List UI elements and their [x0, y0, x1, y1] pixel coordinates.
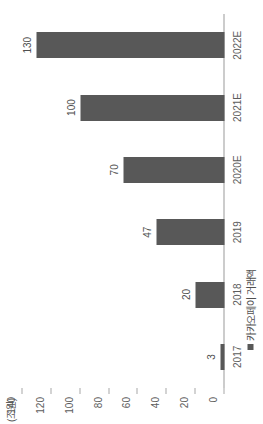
bar[interactable]: [123, 157, 224, 183]
bar-value-label: 70: [108, 164, 119, 175]
bar-value-label: 100: [65, 99, 76, 116]
bar-value-label: 3: [205, 354, 216, 360]
y-axis-tick-label: 0: [208, 397, 219, 403]
y-axis-tick-label: 80: [92, 397, 103, 408]
y-axis-tick: [136, 388, 137, 394]
plot-area: 020406080100120140 320172020184720197020…: [22, 14, 224, 388]
y-axis-tick-label: 140: [6, 397, 17, 414]
y-axis-tick-label: 100: [63, 397, 74, 414]
x-axis-category-label: 2019: [231, 221, 242, 243]
bar[interactable]: [36, 32, 224, 58]
bar-value-label: 47: [141, 227, 152, 238]
bar-group: 32017: [22, 326, 224, 388]
bar[interactable]: [156, 219, 224, 245]
bar[interactable]: [195, 282, 224, 308]
legend-swatch-icon: [247, 344, 253, 350]
bar-group: 702020E: [22, 139, 224, 201]
y-axis-tick: [223, 388, 224, 394]
chart-legend: 카카오페이 거래액: [242, 269, 257, 350]
rotated-figure-wrapper: (조원) 020406080100120140 3201720201847201…: [0, 0, 263, 424]
x-axis-category-label: 2021E: [231, 93, 242, 122]
y-axis-tick-label: 40: [150, 397, 161, 408]
x-axis-category-label: 2020E: [231, 155, 242, 184]
y-axis-tick: [50, 388, 51, 394]
legend-label: 카카오페이 거래액: [242, 269, 257, 341]
bar-group: 472019: [22, 201, 224, 263]
y-axis-tick: [79, 388, 80, 394]
y-axis-tick-label: 20: [179, 397, 190, 408]
bar-value-label: 20: [180, 289, 191, 300]
bar-group: 1302022E: [22, 14, 224, 76]
bar[interactable]: [80, 95, 224, 121]
y-axis-tick-label: 120: [34, 397, 45, 414]
y-axis-tick: [165, 388, 166, 394]
y-axis-tick: [21, 388, 22, 394]
bar-value-label: 130: [21, 37, 32, 54]
bar[interactable]: [220, 344, 224, 370]
x-axis-category-label: 2017: [231, 346, 242, 368]
bar-group: 202018: [22, 263, 224, 325]
x-axis-category-label: 2022E: [231, 31, 242, 60]
bar-group: 1002021E: [22, 76, 224, 138]
x-axis-category-label: 2018: [231, 283, 242, 305]
y-axis-tick: [194, 388, 195, 394]
bar-series-kakaopay-transaction-volume: 32017202018472019702020E1002021E1302022E: [22, 14, 224, 388]
bar-chart-figure: (조원) 020406080100120140 3201720201847201…: [0, 0, 263, 424]
y-axis-tick: [108, 388, 109, 394]
y-axis-tick-label: 60: [121, 397, 132, 408]
